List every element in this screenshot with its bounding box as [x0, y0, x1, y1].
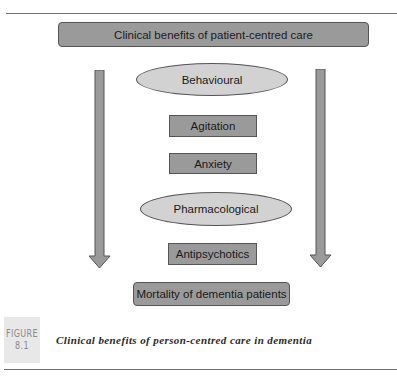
outcome-box: Mortality of dementia patients	[133, 282, 290, 306]
figure-number-badge: FIGURE 8.1	[4, 317, 40, 363]
right-down-arrow-icon	[310, 69, 332, 269]
item-label: Agitation	[191, 120, 236, 132]
item-anxiety: Anxiety	[169, 153, 257, 174]
category-label: Pharmacological	[173, 203, 258, 215]
figure-number: 8.1	[15, 340, 29, 352]
item-label: Anxiety	[194, 158, 232, 170]
category-pharmacological: Pharmacological	[140, 192, 292, 226]
outcome-text: Mortality of dementia patients	[136, 288, 286, 300]
item-agitation: Agitation	[169, 115, 257, 137]
figure-caption: Clinical benefits of person-centred care…	[56, 334, 312, 346]
title-box: Clinical benefits of patient-centred car…	[58, 22, 369, 47]
title-text: Clinical benefits of patient-centred car…	[114, 29, 313, 41]
top-rule	[6, 13, 397, 14]
category-label: Behavioural	[182, 74, 243, 86]
category-behavioural: Behavioural	[136, 63, 288, 96]
item-antipsychotics: Antipsychotics	[168, 243, 257, 265]
left-down-arrow-icon	[89, 70, 111, 270]
bottom-rule	[4, 369, 397, 370]
item-label: Antipsychotics	[176, 248, 250, 260]
figure-word: FIGURE	[6, 328, 38, 340]
